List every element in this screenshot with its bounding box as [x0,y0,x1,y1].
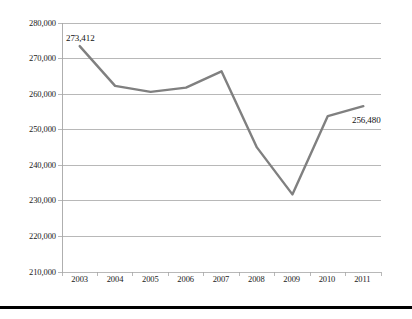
chart-figure: 280,000 270,000 260,000 250,000 240,000 … [0,0,412,319]
x-tick-label-2009: 2009 [274,274,309,290]
y-tick-label-280000: 280,000 [10,19,56,28]
x-tick-label-2006: 2006 [168,274,203,290]
data-label-2011: 256,480 [352,115,381,125]
x-tick-label-2010: 2010 [309,274,344,290]
y-tick-label-220000: 220,000 [10,232,56,241]
y-axis-labels: 280,000 270,000 260,000 250,000 240,000 … [8,0,56,295]
y-tick-label-270000: 270,000 [10,54,56,63]
line-chart: 280,000 270,000 260,000 250,000 240,000 … [0,0,412,295]
bottom-divider-rule [0,306,412,309]
x-tick-label-2008: 2008 [239,274,274,290]
x-tick-label-2005: 2005 [133,274,168,290]
y-tick-label-210000: 210,000 [10,268,56,277]
y-tick-label-230000: 230,000 [10,196,56,205]
x-tick-label-2004: 2004 [97,274,132,290]
y-tick-label-240000: 240,000 [10,161,56,170]
x-axis-labels: 2003 2004 2005 2006 2007 2008 2009 2010 … [62,274,380,290]
data-series-line [80,46,364,194]
x-tick-label-2003: 2003 [62,274,97,290]
data-label-2003: 273,412 [66,33,95,43]
y-tick-label-260000: 260,000 [10,90,56,99]
y-tick-label-250000: 250,000 [10,125,56,134]
x-tick-label-2007: 2007 [203,274,238,290]
plot-canvas [0,0,412,295]
gridlines [62,23,381,272]
x-tick-label-2011: 2011 [345,274,380,290]
y-axis-ticks [58,23,62,272]
